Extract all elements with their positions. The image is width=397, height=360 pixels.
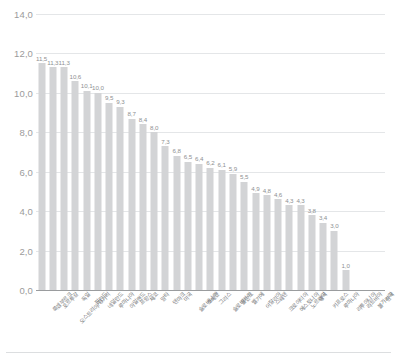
bar-value-label: 11,5 — [36, 55, 47, 62]
bar[interactable] — [241, 182, 248, 290]
axis-baseline — [36, 290, 385, 291]
bar-value-label: 7,3 — [161, 138, 169, 145]
bar-slot: 10,0 — [92, 14, 103, 290]
bar-value-label: 6,2 — [206, 159, 214, 166]
bar-slot: 8,7 — [126, 14, 137, 290]
bar-value-label: 9,3 — [116, 98, 124, 105]
bar-slot — [362, 14, 373, 290]
bar[interactable] — [173, 156, 180, 290]
bottom-divider — [6, 352, 391, 353]
bar-value-label: 4,8 — [263, 187, 271, 194]
bar-value-label: 8,0 — [150, 124, 158, 131]
bar[interactable] — [207, 168, 214, 290]
bar-value-label: 1,0 — [341, 262, 349, 269]
bar-slot: 6,2 — [205, 14, 216, 290]
x-axis-tick-label: 독일 — [81, 292, 92, 303]
bar-slot: 3,4 — [317, 14, 328, 290]
x-axis-category-labels: 룩셈부르크포르투갈오스트리아/헝가리독일핀란드네덜란드루마니아아일랜드프랑스체코… — [36, 292, 385, 354]
bar[interactable] — [218, 170, 225, 290]
bar[interactable] — [94, 93, 101, 290]
bar-slot: 6,1 — [216, 14, 227, 290]
bar-slot: 7,3 — [160, 14, 171, 290]
bar-slot: 1,0 — [340, 14, 351, 290]
bar-slot: 10,1 — [81, 14, 92, 290]
x-axis-tick-label: 말타 — [160, 292, 171, 303]
bar[interactable] — [263, 195, 270, 290]
bar[interactable] — [196, 164, 203, 290]
bar-value-label: 11,3 — [47, 59, 58, 66]
bar-slot: 4,6 — [272, 14, 283, 290]
bar-value-label: 6,8 — [173, 147, 181, 154]
bars: 11,511,311,310,610,110,09,59,38,78,48,07… — [36, 14, 385, 290]
bar[interactable] — [331, 231, 338, 290]
bar[interactable] — [162, 146, 169, 290]
bar-slot: 4,3 — [284, 14, 295, 290]
bar-value-label: 10,6 — [70, 73, 82, 80]
bar-slot: 4,3 — [295, 14, 306, 290]
bar-value-label: 3,4 — [319, 214, 327, 221]
bar-value-label: 4,3 — [296, 197, 304, 204]
y-axis-tick-label: 6,0 — [3, 166, 33, 177]
bar[interactable] — [83, 91, 90, 290]
bar-value-label: 10,0 — [92, 84, 104, 91]
y-axis-tick-label: 8,0 — [3, 127, 33, 138]
y-axis-tick-label: 4,0 — [3, 206, 33, 217]
bar[interactable] — [252, 193, 259, 290]
bar[interactable] — [151, 132, 158, 290]
y-axis-tick-label: 14,0 — [3, 9, 33, 20]
bar-slot: 11,3 — [59, 14, 70, 290]
bar[interactable] — [72, 81, 79, 290]
bar-value-label: 3,8 — [308, 207, 316, 214]
bar-chart: 14,012,010,08,06,04,02,00,0 11,511,311,3… — [0, 0, 397, 360]
bar[interactable] — [184, 162, 191, 290]
bar-slot: 3,8 — [306, 14, 317, 290]
bar-value-label: 6,4 — [195, 155, 203, 162]
bar[interactable] — [128, 119, 135, 291]
bar-value-label: 3,0 — [330, 222, 338, 229]
bar-slot: 9,5 — [104, 14, 115, 290]
bar-slot: 4,8 — [261, 14, 272, 290]
bar[interactable] — [61, 67, 68, 290]
bar-value-label: 9,5 — [105, 94, 113, 101]
bar-slot: 5,9 — [227, 14, 238, 290]
bar-value-label: 10,1 — [81, 82, 93, 89]
y-axis-tick-label: 2,0 — [3, 245, 33, 256]
x-axis-tick-label: 한국 — [385, 292, 396, 303]
bar-slot: 9,3 — [115, 14, 126, 290]
y-axis-tick-label: 12,0 — [3, 48, 33, 59]
bar-value-label: 5,5 — [240, 173, 248, 180]
bar[interactable] — [49, 67, 56, 290]
bar-slot: 6,5 — [182, 14, 193, 290]
bar[interactable] — [297, 205, 304, 290]
bar[interactable] — [230, 174, 237, 290]
bar[interactable] — [320, 223, 327, 290]
bar[interactable] — [139, 124, 146, 290]
bar-slot: 6,8 — [171, 14, 182, 290]
bar-slot: 8,0 — [149, 14, 160, 290]
y-axis-tick-label: 10,0 — [3, 87, 33, 98]
bar-slot: 4,9 — [250, 14, 261, 290]
bar-value-label: 4,6 — [274, 191, 282, 198]
bar[interactable] — [308, 215, 315, 290]
bar-slot — [351, 14, 362, 290]
bar-value-label: 4,3 — [285, 197, 293, 204]
bar[interactable] — [117, 107, 124, 290]
bar-value-label: 6,1 — [218, 161, 226, 168]
bar-value-label: 8,4 — [139, 116, 147, 123]
bar[interactable] — [275, 199, 282, 290]
bar-slot: 10,6 — [70, 14, 81, 290]
bar-slot: 11,5 — [36, 14, 47, 290]
bar-slot: 5,5 — [239, 14, 250, 290]
bar-slot: 6,4 — [194, 14, 205, 290]
bar-slot — [374, 14, 385, 290]
bar[interactable] — [286, 205, 293, 290]
bar[interactable] — [106, 103, 113, 290]
bar-value-label: 5,9 — [229, 165, 237, 172]
plot-area: 11,511,311,310,610,110,09,59,38,78,48,07… — [36, 14, 385, 290]
y-axis: 14,012,010,08,06,04,02,00,0 — [0, 14, 33, 290]
bar[interactable] — [38, 63, 45, 290]
bar-slot: 8,4 — [137, 14, 148, 290]
bar-slot: 3,0 — [329, 14, 340, 290]
bar[interactable] — [342, 270, 349, 290]
bar-value-label: 8,7 — [128, 110, 136, 117]
